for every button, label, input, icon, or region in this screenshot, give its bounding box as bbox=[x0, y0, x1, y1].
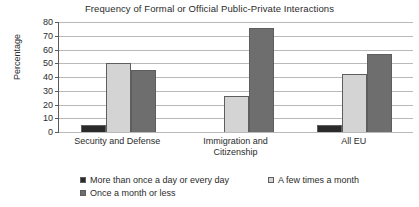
x-axis-label: Security and Defense bbox=[58, 136, 176, 158]
y-axis-tick bbox=[55, 132, 59, 133]
bar bbox=[249, 28, 274, 133]
y-axis-tick-label: 0 bbox=[48, 127, 53, 137]
bar bbox=[131, 70, 156, 132]
bar-group bbox=[295, 22, 413, 132]
legend-swatch-icon bbox=[80, 190, 86, 196]
plot-area: 80706050403020100 bbox=[58, 22, 413, 133]
bar-group bbox=[59, 22, 177, 132]
y-axis-tick-label: 60 bbox=[43, 45, 53, 55]
legend-item[interactable]: A few times a month bbox=[268, 175, 359, 185]
legend-item[interactable]: More than once a day or every day bbox=[80, 175, 268, 185]
bar bbox=[81, 125, 106, 132]
bar bbox=[367, 54, 392, 132]
y-axis-tick-label: 10 bbox=[43, 113, 53, 123]
x-axis-labels: Security and DefenseImmigration andCitiz… bbox=[58, 136, 413, 158]
x-axis-label: Immigration andCitizenship bbox=[176, 136, 294, 158]
x-axis-label-line: All EU bbox=[295, 136, 413, 147]
legend-label: More than once a day or every day bbox=[90, 175, 229, 185]
legend-swatch-icon bbox=[80, 177, 86, 183]
y-axis-tick-label: 40 bbox=[43, 72, 53, 82]
bar bbox=[317, 125, 342, 132]
bar-groups bbox=[59, 22, 413, 132]
x-axis-label-line: Security and Defense bbox=[58, 136, 176, 147]
x-axis-label-line: Immigration and bbox=[176, 136, 294, 147]
legend-row: Once a month or less bbox=[80, 188, 380, 201]
y-axis-tick-label: 20 bbox=[43, 100, 53, 110]
legend-item[interactable]: Once a month or less bbox=[80, 188, 268, 198]
legend-label: A few times a month bbox=[278, 175, 359, 185]
y-axis-tick-label: 80 bbox=[43, 17, 53, 27]
chart-title: Frequency of Formal or Official Public-P… bbox=[0, 3, 419, 14]
y-axis-tick-label: 70 bbox=[43, 31, 53, 41]
legend-swatch-icon bbox=[268, 177, 274, 183]
legend-label: Once a month or less bbox=[90, 188, 176, 198]
bar bbox=[106, 63, 131, 132]
bar-group bbox=[177, 22, 295, 132]
bar bbox=[224, 96, 249, 132]
bar bbox=[342, 74, 367, 132]
x-axis-label-line: Citizenship bbox=[176, 147, 294, 158]
y-axis-tick-label: 30 bbox=[43, 86, 53, 96]
chart-legend: More than once a day or every dayA few t… bbox=[80, 175, 380, 201]
y-axis-tick-label: 50 bbox=[43, 58, 53, 68]
bar-chart: Frequency of Formal or Official Public-P… bbox=[0, 0, 419, 207]
y-axis-title: Percentage bbox=[12, 12, 22, 102]
gridline bbox=[59, 132, 413, 133]
x-axis-label: All EU bbox=[295, 136, 413, 158]
legend-row: More than once a day or every dayA few t… bbox=[80, 175, 380, 188]
